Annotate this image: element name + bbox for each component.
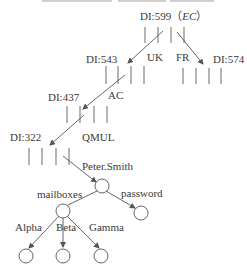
gamma-node <box>94 249 108 263</box>
beta-node <box>56 249 70 263</box>
directory-tree-diagram: DI:599（EC） UK FR DI:543 DI:574 AC DI:437 <box>0 0 247 274</box>
dsa-node-543: DI:543 <box>86 53 144 84</box>
dsa-label-437: DI:437 <box>48 91 80 103</box>
dsa-label-599: DI:599（EC） <box>140 10 207 22</box>
dsa-label-322: DI:322 <box>10 131 41 143</box>
dsa-node-574: DI:574 <box>183 53 245 84</box>
mailboxes-node <box>56 204 70 218</box>
edge-label-gamma: Gamma <box>89 221 124 233</box>
edge-label-fr: FR <box>176 51 190 63</box>
edge-label-peter-smith: Peter.Smith <box>82 160 134 172</box>
dsa-node-599: DI:599（EC） <box>140 10 207 43</box>
edge-label-uk: UK <box>147 51 163 63</box>
user-entry-node <box>95 179 109 193</box>
edge-label-ac: AC <box>108 89 123 101</box>
dsa-label-543: DI:543 <box>86 53 118 65</box>
edge-label-alpha: Alpha <box>15 221 42 233</box>
password-node <box>134 206 148 220</box>
edge-label-mailboxes: mailboxes <box>37 188 82 200</box>
dsa-node-437: DI:437 <box>48 91 107 123</box>
alpha-node <box>19 249 33 263</box>
dsa-label-574: DI:574 <box>213 53 245 65</box>
edge-label-password: password <box>121 187 163 199</box>
edge-label-qmul: QMUL <box>82 131 115 143</box>
cropped-caption-remnant <box>42 0 214 2</box>
